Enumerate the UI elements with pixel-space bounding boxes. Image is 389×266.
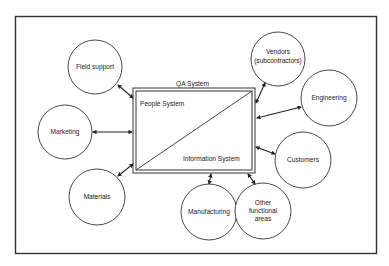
arrow-customers xyxy=(256,147,275,154)
arrow-vendors xyxy=(256,83,265,103)
node-field-support: Field support xyxy=(68,40,122,94)
svg-text:functional: functional xyxy=(249,207,278,214)
arrow-manufacturing xyxy=(209,174,211,184)
arrow-materials xyxy=(118,164,133,176)
qa-system-diagram: QA System People System Information Syst… xyxy=(0,0,389,266)
svg-text:Materials: Materials xyxy=(84,193,111,200)
arrow-other-functional-areas xyxy=(248,174,255,184)
arrow-field-support xyxy=(118,85,133,98)
node-materials: Materials xyxy=(69,169,125,225)
node-marketing: Marketing xyxy=(38,105,92,159)
node-customers: Customers xyxy=(275,132,331,188)
svg-text:Customers: Customers xyxy=(287,156,320,163)
svg-text:Field support: Field support xyxy=(76,63,114,71)
svg-text:areas: areas xyxy=(255,215,272,222)
node-engineering: Engineering xyxy=(301,70,357,126)
node-vendors: Vendors (subcontractors) xyxy=(251,32,305,86)
information-system-label: Information System xyxy=(183,155,240,163)
svg-text:Vendors: Vendors xyxy=(266,48,291,55)
svg-text:Engineering: Engineering xyxy=(311,94,347,102)
svg-text:(subcontractors): (subcontractors) xyxy=(254,57,302,65)
node-manufacturing: Manufacturing xyxy=(181,184,237,240)
people-system-label: People System xyxy=(140,100,185,108)
arrow-engineering xyxy=(257,107,301,118)
svg-text:Manufacturing: Manufacturing xyxy=(188,208,230,216)
svg-text:Other: Other xyxy=(255,199,272,206)
node-other-functional-areas: Other functional areas xyxy=(235,183,291,239)
qa-system-label: QA System xyxy=(176,80,209,88)
svg-text:Marketing: Marketing xyxy=(51,128,80,136)
